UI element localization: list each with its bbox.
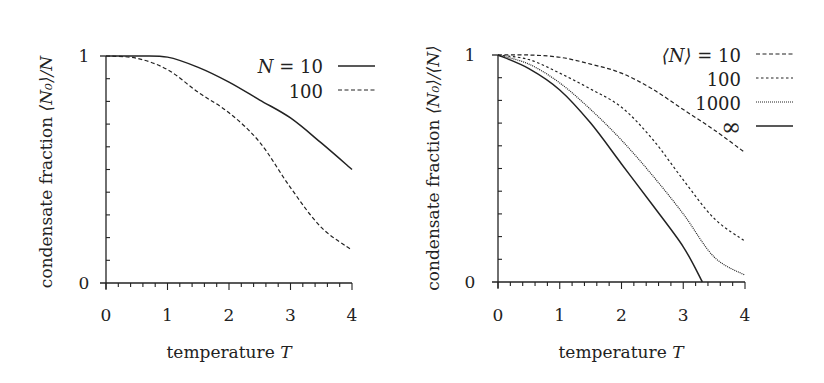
figure: 1 0 0 1 2 3 4 temperature T condensate f… [0, 0, 824, 383]
left-ytick-1: 1 [79, 46, 90, 66]
left-x-axis-label: temperature T [167, 342, 294, 362]
right-x-axis-label: temperature T [559, 342, 686, 362]
left-legend: N = 10 100 [257, 56, 375, 102]
right-xtick-1: 1 [554, 305, 565, 325]
right-ytick-1: 1 [465, 45, 476, 65]
right-xtick-4: 4 [740, 305, 751, 325]
right-ytick-0: 0 [465, 272, 476, 292]
right-chart-panel: 1 0 0 1 2 3 4 temperature T condensate f… [423, 45, 793, 362]
legend-label-avg-n1000: 1000 [695, 93, 741, 114]
left-xtick-2: 2 [224, 305, 235, 325]
curve-solid [498, 55, 702, 282]
left-chart-panel: 1 0 0 1 2 3 4 temperature T condensate f… [36, 46, 375, 362]
legend-label-avg-n100: 100 [707, 69, 741, 90]
right-xtick-3: 3 [678, 305, 689, 325]
right-axes [492, 55, 745, 289]
left-ytick-0: 0 [79, 273, 90, 293]
legend-label-n100: 100 [289, 81, 323, 102]
right-y-axis-label: condensate fraction ⟨N₀⟩/⟨N⟩ [423, 45, 443, 291]
legend-label-avg-n10: ⟨N⟩ = 10 [662, 45, 741, 66]
left-xtick-0: 0 [101, 305, 112, 325]
chart-canvas: 1 0 0 1 2 3 4 temperature T condensate f… [0, 0, 824, 383]
right-legend: ⟨N⟩ = 10 100 1000 ∞ [662, 45, 793, 141]
right-xtick-2: 2 [616, 305, 627, 325]
right-xtick-0: 0 [493, 305, 504, 325]
left-y-axis-label: condensate fraction ⟨N₀⟩/N [36, 55, 56, 288]
left-xtick-1: 1 [162, 305, 173, 325]
legend-label-infinity: ∞ [721, 113, 741, 141]
left-xtick-4: 4 [347, 305, 358, 325]
left-xtick-3: 3 [285, 305, 296, 325]
legend-label-n10: N = 10 [257, 56, 323, 77]
